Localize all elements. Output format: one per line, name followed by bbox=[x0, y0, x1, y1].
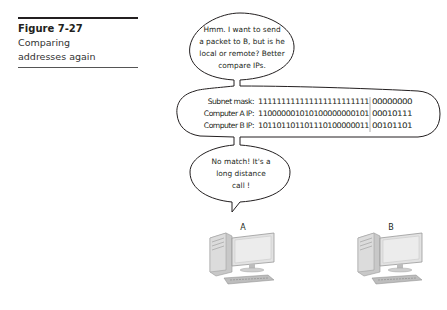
computer-b: B bbox=[358, 223, 422, 284]
comparison-row-computer-a: Computer A IP: 110000001010100000000101 … bbox=[204, 109, 413, 118]
bottom-bubble-line-3: call ! bbox=[232, 181, 250, 190]
row-label: Computer B IP: bbox=[204, 121, 254, 130]
host-bits: 00010111 bbox=[372, 109, 413, 118]
comparison-row-subnet: Subnet mask: 111111111111111111111111 00… bbox=[208, 97, 413, 106]
top-speech-bubble: Hmm. I want to send a packet to B, but i… bbox=[190, 13, 294, 86]
diagram-canvas: Hmm. I want to send a packet to B, but i… bbox=[0, 0, 447, 310]
network-bits: 101101101101110100000011 bbox=[258, 121, 370, 130]
top-bubble-line-3: local or remote? Better bbox=[199, 49, 285, 58]
computer-a-icon bbox=[210, 233, 274, 284]
host-bits: 00101101 bbox=[372, 121, 413, 130]
comparison-row-computer-b: Computer B IP: 101101101101110100000011 … bbox=[204, 121, 413, 130]
row-label: Subnet mask: bbox=[208, 97, 254, 106]
bottom-bubble-line-2: long distance bbox=[216, 169, 266, 178]
ip-comparison-bubble: Subnet mask: 111111111111111111111111 00… bbox=[177, 86, 440, 145]
host-bits: 00000000 bbox=[372, 97, 413, 106]
top-bubble-line-4: compare IPs. bbox=[218, 61, 265, 70]
network-bits: 110000001010100000000101 bbox=[258, 109, 370, 118]
top-bubble-line-1: Hmm. I want to send bbox=[203, 25, 281, 34]
bottom-bubble-line-1: No match! It's a bbox=[212, 157, 271, 166]
computer-a-label: A bbox=[240, 223, 246, 232]
computer-b-label: B bbox=[388, 223, 394, 232]
computer-b-icon bbox=[358, 233, 422, 284]
computer-a: A bbox=[210, 223, 274, 284]
network-bits: 111111111111111111111111 bbox=[258, 97, 370, 106]
row-label: Computer A IP: bbox=[204, 109, 254, 118]
top-bubble-line-2: a packet to B, but is he bbox=[199, 37, 285, 46]
bottom-speech-bubble: No match! It's a long distance call ! bbox=[190, 145, 290, 212]
